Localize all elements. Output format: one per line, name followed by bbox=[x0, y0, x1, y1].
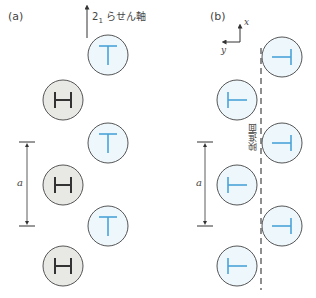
t-molecule bbox=[262, 123, 302, 163]
h-molecule bbox=[43, 80, 83, 120]
glide-plane-label: 映進面 bbox=[245, 124, 258, 151]
t-molecule bbox=[217, 165, 257, 205]
y-axis-label: y bbox=[221, 45, 226, 55]
panel-b-label: (b) bbox=[210, 10, 226, 23]
t-molecule bbox=[88, 206, 128, 246]
dimension-a-right-label: a bbox=[196, 177, 202, 188]
figure-graphics bbox=[0, 0, 316, 298]
h-molecule bbox=[43, 246, 83, 286]
h-molecule bbox=[43, 165, 83, 205]
t-molecule bbox=[88, 35, 128, 75]
dimension-a-left-label: a bbox=[17, 177, 23, 188]
panel-a-label: (a) bbox=[8, 10, 23, 23]
coordinate-axes bbox=[224, 26, 240, 42]
t-molecule bbox=[262, 206, 302, 246]
t-molecule bbox=[88, 123, 128, 163]
x-axis-label: x bbox=[244, 17, 249, 27]
symmetry-figure: (a) 21 らせん軸 a (b) x y a 映進面 bbox=[0, 0, 316, 298]
t-molecule bbox=[217, 80, 257, 120]
t-molecule bbox=[262, 37, 302, 77]
screw-axis-label: 21 らせん軸 bbox=[92, 8, 146, 25]
screw-axis-text: らせん軸 bbox=[103, 11, 146, 22]
t-molecule bbox=[217, 246, 257, 286]
